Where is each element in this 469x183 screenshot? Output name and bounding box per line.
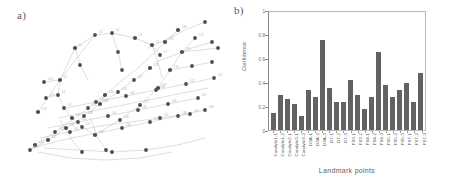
bar: [292, 104, 297, 130]
x-axis-title: Landmark points: [268, 167, 426, 174]
x-tick-slot: F05-3: [397, 132, 404, 166]
x-tick-slot: F05-2: [390, 132, 397, 166]
svg-text:L8: L8: [62, 90, 65, 94]
bar-slot: [347, 12, 354, 130]
svg-text:L6: L6: [156, 40, 159, 44]
bar: [271, 113, 276, 130]
bar-slot: [291, 12, 298, 130]
svg-text:L52: L52: [218, 73, 223, 77]
svg-text:L31: L31: [34, 145, 39, 149]
bar-slot: [361, 12, 368, 130]
svg-text:L26: L26: [122, 87, 127, 91]
svg-text:L9: L9: [68, 103, 71, 107]
svg-text:L7: L7: [164, 50, 167, 54]
svg-text:L48: L48: [100, 97, 105, 101]
svg-text:L44: L44: [112, 111, 117, 115]
x-tick-slot: Condyle3-2: [297, 132, 304, 166]
y-tick-mark: [265, 11, 268, 12]
x-tick-slot: D7-2: [333, 132, 340, 166]
svg-text:L20: L20: [186, 47, 191, 51]
svg-text:L4: L4: [116, 28, 119, 32]
bar-slot: [375, 12, 382, 130]
bar-series: [269, 12, 425, 130]
svg-text:L23: L23: [59, 127, 64, 131]
bar: [285, 99, 290, 130]
bar: [334, 102, 339, 130]
bar-slot: [277, 12, 284, 130]
bar-slot: [326, 12, 333, 130]
svg-text:L30: L30: [182, 25, 187, 29]
x-tick-slot: F04-1: [361, 132, 368, 166]
svg-text:L42: L42: [194, 109, 199, 113]
bar: [418, 73, 423, 130]
svg-text:L17: L17: [144, 100, 149, 104]
x-tick-slot: F07-3: [418, 132, 425, 166]
svg-text:L34: L34: [88, 111, 93, 115]
panel-a-landmark-graph: a): [0, 0, 232, 183]
svg-text:L36: L36: [126, 123, 131, 127]
bar: [278, 95, 283, 130]
x-tick-slot: D7-1: [326, 132, 333, 166]
figure-container: a): [0, 0, 469, 183]
panel-b-confidence-chart: b) Confidence 00.20.40.60.81 Condyle1-1C…: [232, 0, 469, 183]
bar: [369, 97, 374, 130]
bar-slot: [319, 12, 326, 130]
svg-text:L25: L25: [109, 90, 114, 94]
x-tick-slot: F03-2: [354, 132, 361, 166]
bar: [348, 80, 353, 130]
y-tick-mark: [265, 83, 268, 84]
svg-text:L3: L3: [99, 30, 102, 34]
bar-slot: [368, 12, 375, 130]
x-tick-slot: D3A-1: [304, 132, 311, 166]
bar-slot: [417, 12, 424, 130]
x-tick-slot: Condyle1-2: [276, 132, 283, 166]
y-axis-title: Confidence: [241, 42, 247, 71]
bar-slot: [382, 12, 389, 130]
bar: [376, 52, 381, 130]
svg-text:L51: L51: [190, 79, 195, 83]
svg-text:L49: L49: [130, 91, 135, 95]
svg-text:L27: L27: [138, 75, 143, 79]
svg-text:L14: L14: [48, 77, 53, 81]
bar-slot: [270, 12, 277, 130]
x-tick-slot: F04-2: [368, 132, 375, 166]
svg-text:L16: L16: [124, 115, 129, 119]
bar: [306, 90, 311, 130]
x-tick-slot: D3A-3: [319, 132, 326, 166]
svg-text:L5: L5: [139, 33, 142, 37]
svg-text:L1: L1: [64, 75, 67, 79]
x-tick-slot: F04-3: [375, 132, 382, 166]
bar: [411, 102, 416, 130]
svg-text:L19: L19: [174, 65, 179, 69]
bar-slot: [284, 12, 291, 130]
svg-text:L12: L12: [99, 130, 104, 134]
svg-text:L22: L22: [39, 140, 44, 144]
x-tick-slot: Condyle3-1: [290, 132, 297, 166]
x-tick-slot: D3A-2: [312, 132, 319, 166]
bar: [390, 97, 395, 130]
svg-text:L35: L35: [104, 99, 109, 103]
x-tick-slot: F05-1: [383, 132, 390, 166]
svg-text:L28: L28: [154, 63, 159, 67]
bar: [320, 40, 325, 130]
x-tick-slot: F07-1: [404, 132, 411, 166]
bar-slot: [410, 12, 417, 130]
svg-text:L10: L10: [76, 113, 81, 117]
x-tick-labels: Condyle1-1Condyle1-2Condyle2-1Condyle3-1…: [268, 132, 426, 166]
svg-text:L24: L24: [92, 103, 97, 107]
x-tick-slot: F03-1: [347, 132, 354, 166]
x-tick-slot: Condyle2-1: [283, 132, 290, 166]
bar: [397, 90, 402, 130]
bar: [355, 95, 360, 130]
bar: [327, 88, 332, 130]
bar: [362, 109, 367, 130]
bar-slot: [298, 12, 305, 130]
svg-text:L39: L39: [209, 105, 214, 109]
bar: [341, 102, 346, 130]
landmark-graph-svg: L1L2 L3L4 L5L6 L7L8 L9L10 L11L12 L13L14 …: [0, 0, 232, 183]
svg-text:L41: L41: [164, 113, 169, 117]
y-tick-mark: [265, 107, 268, 108]
svg-text:L21: L21: [199, 33, 204, 37]
x-tick-label: F07-3: [422, 133, 427, 145]
svg-text:L29: L29: [169, 37, 174, 41]
